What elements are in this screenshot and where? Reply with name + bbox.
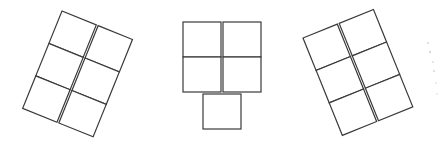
- panel-cell: [183, 22, 221, 57]
- scan-noise-specks: [427, 42, 438, 95]
- center-grid-with-extra-cell: [183, 22, 261, 129]
- right-rotated-grid: [303, 10, 413, 136]
- left-rotated-grid: [23, 11, 133, 137]
- panel-cell: [203, 94, 241, 129]
- diagram-canvas: [0, 0, 446, 150]
- panel-cell: [183, 57, 221, 92]
- panel-cell: [223, 22, 261, 57]
- panel-cell: [223, 57, 261, 92]
